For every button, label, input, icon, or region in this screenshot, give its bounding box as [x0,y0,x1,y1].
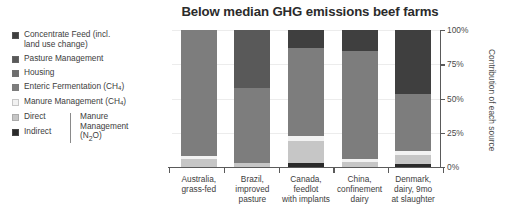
plot-area [172,30,440,167]
legend-brace-icon [70,113,77,143]
legend-label-enteric-fermentation: Enteric Fermentation (CH4) [24,82,124,93]
legend-label-manure-tail: ) [123,96,126,106]
bar-brazil[interactable] [234,30,270,167]
y-axis-tick [440,99,445,100]
legend-swatch-pasture-management [12,56,19,63]
y-axis-tick-label: 0% [447,162,459,172]
bar-australia[interactable] [181,30,217,167]
legend-label-housing: Housing [24,68,54,78]
bar-segment [181,30,217,156]
legend-swatch-indirect [12,129,19,136]
x-axis-tick [169,168,170,173]
x-axis-label-line: Canada, [290,174,321,184]
legend-item-enteric-fermentation[interactable]: Enteric Fermentation (CH4) [12,82,172,93]
bar-segment [395,155,431,165]
legend-item-pasture-management[interactable]: Pasture Management [12,54,172,64]
x-axis-label-line: with implants [282,194,330,204]
x-axis-label-line: Australia, [182,174,217,184]
bar-china[interactable] [342,30,378,167]
x-axis-tick [279,168,280,173]
legend-item-manure-management-ch4[interactable]: Manure Management (CH4) [12,97,172,108]
legend-item-concentrate-feed[interactable]: Concentrate Feed (incl. land use change) [12,30,172,49]
bar-segment [288,30,324,48]
legend-swatch-direct [12,114,19,121]
legend-label-line1: Concentrate Feed (incl. [24,29,110,39]
legend-item-housing[interactable]: Housing [12,68,172,78]
x-axis-labels: Australia,grass-fedBrazil,improvedpastur… [172,174,440,214]
x-axis-label-line: at slaughter [391,194,434,204]
x-axis-label-line: dairy, 9mo [394,184,432,194]
x-axis-label: Denmark,dairy, 9moat slaughter [388,174,438,214]
legend-label-enteric-sub: 4 [118,85,121,91]
x-axis-label: Brazil,improvedpasture [227,174,277,214]
legend-label-indirect: Indirect [24,127,51,137]
x-axis-label-line: improved [235,184,269,194]
bar-segment [342,30,378,51]
legend-label-manure-sub: 4 [120,100,123,106]
bar-group [172,30,440,167]
chart-title: Below median GHG emissions beef farms [160,4,460,19]
legend-label-manure-main: Manure Management (CH [24,96,120,106]
legend-swatch-housing [12,70,19,77]
legend-bracket-group-manure-n2o: Direct Indirect Manure Management (N2O) [12,112,172,141]
x-axis-tick [224,168,225,173]
legend-bracket-line2: Management [80,121,128,131]
legend-label-enteric-main: Enteric Fermentation (CH [24,81,118,91]
x-axis-label-line: pasture [239,194,267,204]
bar-segment [395,30,431,94]
y-axis-title: Contribution of each source [487,32,497,168]
bar-segment [288,48,324,136]
y-axis-tick-label: 100% [447,25,468,35]
x-axis-label: Canada,feedlotwith implants [281,174,331,214]
legend-bracket-line3-main: (N [80,130,89,140]
legend-bracket-label: Manure Management (N2O) [80,112,128,143]
legend-label-pasture-management: Pasture Management [24,54,103,64]
bar-segment [342,51,378,159]
y-axis-tick [440,30,445,31]
x-axis-label-line: confinement [337,184,382,194]
legend-label-manure-management-ch4: Manure Management (CH4) [24,97,126,108]
legend-swatch-manure-management-ch4 [12,99,19,106]
x-axis-label-line: dairy [351,194,369,204]
bar-canada[interactable] [288,30,324,167]
x-axis-label-line: Brazil, [241,174,264,184]
y-axis-tick [440,64,445,65]
legend-swatch-concentrate-feed [12,32,19,39]
x-axis-line [168,167,444,168]
legend-bracket-line3-tail: O) [93,130,102,140]
legend-label-enteric-tail: ) [121,81,124,91]
bar-segment [395,94,431,150]
bar-denmark[interactable] [395,30,431,167]
legend-swatch-enteric-fermentation [12,84,19,91]
y-axis-tick-label: 75% [447,59,464,69]
legend-label-direct: Direct [24,112,46,122]
legend-label-concentrate-feed: Concentrate Feed (incl. land use change) [24,30,110,49]
bar-segment [288,141,324,163]
x-axis-tick [443,168,444,173]
x-axis-label-line: grass-fed [182,184,217,194]
x-axis-tick [388,168,389,173]
bar-segment [181,159,217,167]
y-axis-tick-label: 25% [447,128,464,138]
x-axis-label-line: feedlot [294,184,319,194]
x-axis-tick [333,168,334,173]
x-axis-label: Australia,grass-fed [174,174,224,214]
bar-segment [234,30,270,88]
legend-bracket-line1: Manure [80,111,108,121]
legend-label-line2: land use change) [24,39,88,49]
y-axis-tick [440,133,445,134]
x-axis-label-line: Denmark, [395,174,431,184]
chart-legend: Concentrate Feed (incl. land use change)… [12,30,172,141]
x-axis-label: China,confinementdairy [335,174,385,214]
chart-root: Below median GHG emissions beef farms Co… [0,0,510,217]
y-axis-tick-label: 50% [447,94,464,104]
bar-segment [234,88,270,163]
x-axis-label-line: China, [348,174,372,184]
